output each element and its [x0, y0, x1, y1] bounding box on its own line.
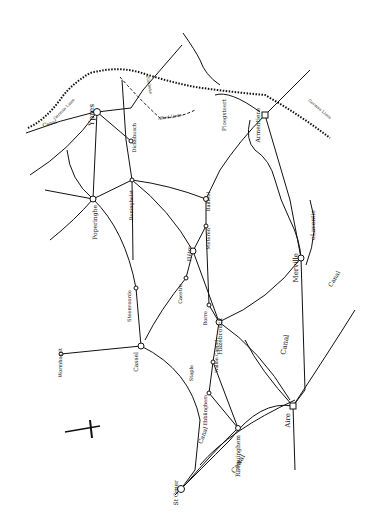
canal-label: Canal — [196, 426, 209, 445]
town-label-bailleul: Bailleul — [205, 192, 211, 212]
town-label-ebblinghem: Ebblinghem — [202, 395, 209, 426]
town-label-meteren: Meteren — [205, 227, 211, 249]
town-label-staple: Staple — [188, 365, 195, 381]
front-label: German Lines — [52, 97, 76, 121]
town-label-wormhoudt: Wormhoudt — [57, 348, 63, 378]
town-label-merville: Merville — [292, 253, 300, 282]
front-label: Allied Lines — [157, 112, 182, 121]
front-line-german — [28, 69, 330, 138]
town-label-ploegsteert: Ploegsteert — [221, 98, 228, 131]
town-label-lavontie: oLaventie — [309, 210, 316, 240]
front-label: German Lines — [307, 98, 332, 120]
compass-icon — [65, 420, 100, 438]
town-label-wallon-cappel: Wallon Cappel — [214, 339, 219, 372]
historical-map: YpresPoperingheReninghelstDickebuschArme… — [0, 0, 389, 527]
canal-label: Canal — [326, 269, 341, 288]
front-line-allied — [120, 77, 195, 118]
river-lys-north — [183, 33, 220, 85]
town-label-poperinghe: Poperinghe — [91, 205, 99, 240]
canal-label: Canal — [230, 452, 248, 474]
town-label-armentiere: Armentiere — [254, 108, 261, 144]
town-label-flêtre: Flêtre — [186, 246, 192, 261]
canal-label: Canal — [279, 333, 291, 355]
town-label-dickebusch: Dickebusch — [131, 122, 137, 152]
town-label-steenvoorde: Steenvoorde — [126, 290, 132, 322]
map-labels: YpresPoperingheReninghelstDickebuschArme… — [42, 75, 342, 505]
town-label-cassel: Cassel — [132, 352, 139, 372]
town-label-caestre: Caestre — [177, 284, 183, 304]
town-label-ypres: Ypres — [87, 104, 96, 127]
town-label-borre: Borre — [202, 311, 208, 325]
town-label-st-omer: St Omer — [172, 480, 179, 506]
town-label-reninghelst: Reninghelst — [128, 190, 135, 220]
town-label-aire: Aire — [284, 413, 292, 429]
